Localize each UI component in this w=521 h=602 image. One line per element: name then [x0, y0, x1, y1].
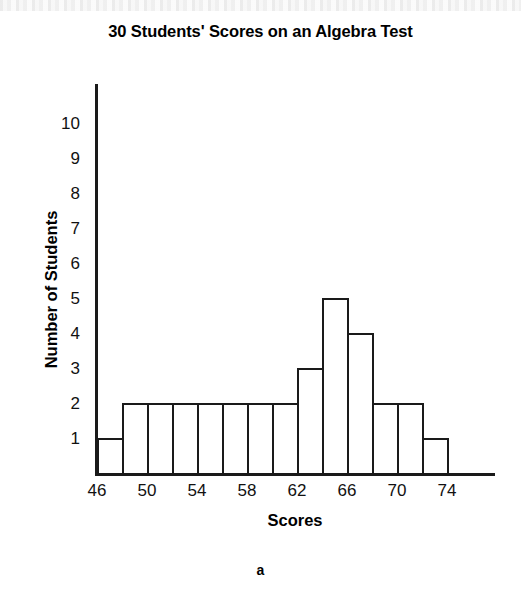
histogram-bar	[322, 298, 349, 473]
x-axis-tick-70: 70	[388, 482, 407, 499]
y-axis-tick-6: 6	[71, 255, 80, 272]
x-axis-label: Scores	[95, 511, 495, 530]
histogram-bar	[197, 403, 224, 473]
y-axis-tick-9: 9	[71, 150, 80, 167]
y-axis-tick-8: 8	[71, 185, 80, 202]
histogram-bar	[122, 403, 149, 473]
y-axis-tick-4: 4	[71, 325, 80, 342]
histogram-bars	[97, 84, 447, 473]
y-axis-tick-1: 1	[71, 430, 80, 447]
histogram-bar	[147, 403, 174, 473]
y-axis-tick-7: 7	[71, 220, 80, 237]
x-axis-tick-54: 54	[188, 482, 207, 499]
x-axis-tick-labels: 4650545862667074	[95, 482, 495, 506]
y-axis-tick-2: 2	[71, 395, 80, 412]
histogram-bar	[97, 438, 124, 473]
histogram-bar	[372, 403, 399, 473]
figure-container: 30 Students' Scores on an Algebra Test N…	[0, 0, 521, 602]
x-axis-tick-74: 74	[438, 482, 457, 499]
figure-caption: a	[0, 562, 521, 578]
histogram-bar	[297, 368, 324, 473]
histogram-bar	[397, 403, 424, 473]
x-axis-tick-66: 66	[338, 482, 357, 499]
histogram-bar	[172, 403, 199, 473]
y-axis-tick-3: 3	[71, 360, 80, 377]
y-axis-tick-labels: 12345678910	[0, 84, 90, 476]
x-axis-line	[95, 473, 495, 476]
y-axis-tick-10: 10	[61, 115, 80, 132]
histogram-bar	[272, 403, 299, 473]
y-axis-tick-5: 5	[71, 290, 80, 307]
x-axis-tick-46: 46	[88, 482, 107, 499]
histogram-bar	[222, 403, 249, 473]
histogram-bar	[247, 403, 274, 473]
histogram-bar	[347, 333, 374, 473]
x-axis-tick-58: 58	[238, 482, 257, 499]
plot-area	[95, 84, 495, 476]
x-axis-tick-62: 62	[288, 482, 307, 499]
chart-title: 30 Students' Scores on an Algebra Test	[0, 22, 521, 41]
x-axis-tick-50: 50	[138, 482, 157, 499]
histogram-bar	[422, 438, 449, 473]
scan-artifact-band	[0, 0, 521, 11]
